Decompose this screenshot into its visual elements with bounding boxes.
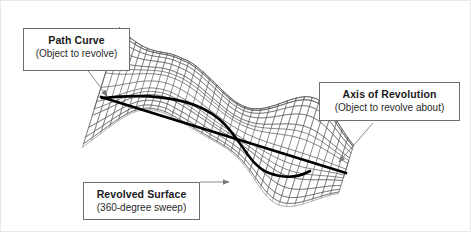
callout-axis-heading: Axis of Revolution	[326, 87, 453, 101]
callout-axis-subtext: (Object to revolve about)	[326, 101, 453, 114]
callout-revolved-subtext: (360-degree sweep)	[90, 201, 193, 214]
callout-axis-of-revolution: Axis of Revolution (Object to revolve ab…	[319, 82, 460, 121]
callout-revolved-heading: Revolved Surface	[90, 187, 193, 201]
callout-revolved-surface: Revolved Surface (360-degree sweep)	[83, 182, 200, 220]
leader-axis	[339, 123, 373, 162]
callout-path-curve: Path Curve (Object to revolve)	[23, 28, 130, 71]
callout-path-curve-heading: Path Curve	[30, 33, 123, 47]
diagram-canvas: Path Curve (Object to revolve) Axis of R…	[0, 0, 471, 232]
callout-path-curve-subtext: (Object to revolve)	[30, 47, 123, 60]
